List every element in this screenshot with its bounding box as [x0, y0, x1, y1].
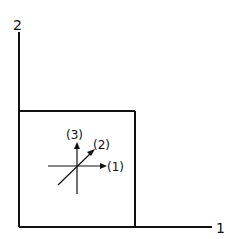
local-axis-3-label: (3)	[66, 128, 83, 142]
diagram-canvas: 2 1 (1) (2) (3)	[0, 0, 233, 239]
local-axis-2-label: (2)	[93, 138, 110, 152]
local-axis-1-label: (1)	[107, 160, 124, 174]
arrowhead-1-icon	[100, 163, 107, 169]
local-axis-2	[58, 152, 92, 185]
vertical-axis-label: 2	[13, 17, 22, 33]
horizontal-axis-label: 1	[216, 220, 225, 236]
arrowhead-3-icon	[74, 142, 80, 149]
